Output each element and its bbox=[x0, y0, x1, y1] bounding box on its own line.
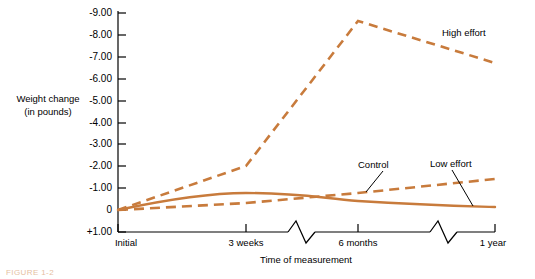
y-tick-label-minus-6: -6.00 bbox=[66, 73, 112, 84]
x-tick-label-initial: Initial bbox=[96, 237, 156, 248]
series-line-high-effort bbox=[118, 21, 495, 210]
series-label-low-effort: Low effort bbox=[430, 158, 472, 169]
leader-line-control bbox=[366, 171, 383, 192]
y-tick-label-minus-2: -2.00 bbox=[66, 160, 112, 171]
y-tick-label-plus-1: +1.00 bbox=[66, 226, 112, 237]
x-axis-ticks bbox=[118, 224, 495, 232]
y-tick-label-minus-4: -4.00 bbox=[66, 117, 112, 128]
y-tick-label-zero: 0 bbox=[66, 204, 112, 215]
x-axis-line bbox=[118, 221, 495, 243]
chart-figure: Weight change (in pounds) -9.00 -8.00 -7… bbox=[0, 0, 535, 279]
x-tick-label-3-weeks: 3 weeks bbox=[211, 237, 281, 248]
x-axis-title: Time of measurement bbox=[186, 254, 426, 265]
y-tick-label-minus-5: -5.00 bbox=[66, 95, 112, 106]
y-tick-label-minus-8: -8.00 bbox=[66, 29, 112, 40]
leader-line-low-effort bbox=[452, 170, 473, 206]
y-tick-label-minus-1: -1.00 bbox=[66, 182, 112, 193]
y-tick-label-minus-3: -3.00 bbox=[66, 138, 112, 149]
y-tick-label-minus-7: -7.00 bbox=[66, 51, 112, 62]
x-tick-label-1-year: 1 year bbox=[462, 237, 524, 248]
y-tick-label-minus-9: -9.00 bbox=[66, 7, 112, 18]
x-tick-label-6-months: 6 months bbox=[322, 237, 394, 248]
figure-caption: FIGURE 1-2 bbox=[6, 268, 54, 277]
y-axis-ticks bbox=[118, 13, 126, 232]
series-label-control: Control bbox=[358, 159, 389, 170]
series-label-high-effort: High effort bbox=[442, 27, 486, 38]
